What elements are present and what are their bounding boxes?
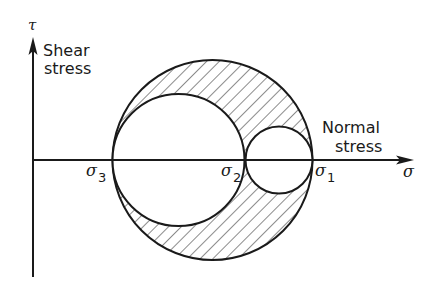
tau-symbol: τ [28,16,37,34]
mohr-circle-diagram: τ Shear stress Normal stress σ σ 3 σ 2 σ… [0,0,441,290]
shear-label-line2: stress [44,59,91,78]
svg-text:σ: σ [86,161,98,180]
svg-text:3: 3 [98,170,106,185]
svg-text:2: 2 [233,170,241,185]
normal-label-line1: Normal [322,118,380,137]
svg-text:σ: σ [221,161,233,180]
normal-label-line2: stress [335,137,382,156]
svg-text:1: 1 [327,170,335,185]
shear-label-line1: Shear [43,41,90,60]
sigma-symbol: σ [403,162,415,181]
svg-text:σ: σ [315,161,327,180]
